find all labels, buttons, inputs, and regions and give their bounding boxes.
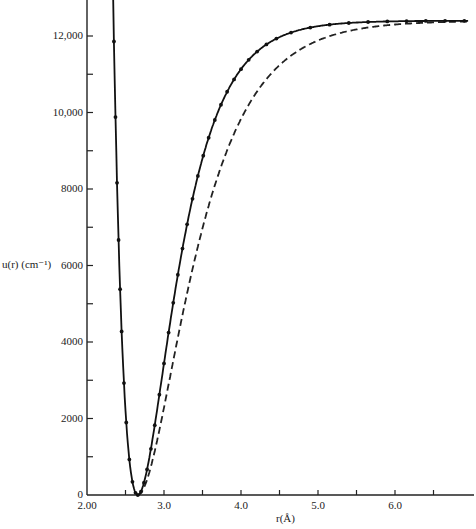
morse-dashed-curve bbox=[138, 22, 468, 496]
x-tick-label: 2.00 bbox=[77, 499, 96, 511]
x-tick-label: 4.0 bbox=[234, 499, 248, 511]
x-tick-label: 5.0 bbox=[311, 499, 325, 511]
y-tick-label: 10,000 bbox=[3, 106, 83, 118]
y-tick-label: 0 bbox=[3, 488, 83, 500]
y-tick-label: 12,000 bbox=[3, 29, 83, 41]
axes bbox=[87, 0, 474, 495]
data-point-markers bbox=[112, 19, 466, 497]
y-axis-label: u(r) (cm⁻¹) bbox=[2, 258, 51, 271]
y-tick-label: 2000 bbox=[3, 412, 83, 424]
x-tick-label: 6.0 bbox=[388, 499, 402, 511]
x-axis-label: r(Å) bbox=[276, 512, 295, 524]
x-tick-label: 3.0 bbox=[157, 499, 171, 511]
y-tick-label: 4000 bbox=[3, 335, 83, 347]
y-tick-label: 8000 bbox=[3, 182, 83, 194]
